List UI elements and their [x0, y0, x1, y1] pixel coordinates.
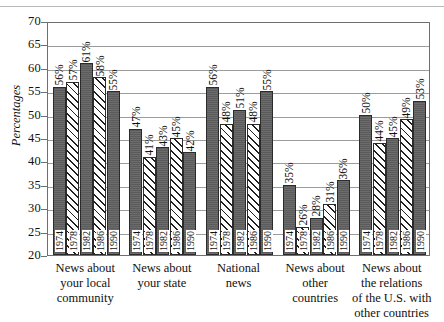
category-label-line: community	[41, 291, 130, 306]
bar[interactable]: 61%1982	[80, 63, 93, 255]
y-axis-tick-mark	[41, 256, 47, 257]
bar[interactable]: 45%1986	[170, 138, 183, 255]
category-label-line: other	[271, 276, 360, 291]
bar[interactable]: 53%1990	[413, 101, 426, 255]
bar-year-label: 1982	[389, 230, 399, 252]
page-rule-divider	[0, 6, 444, 7]
bar-year-label: 1986	[172, 230, 182, 252]
bar-year-label: 1986	[402, 230, 412, 252]
bar[interactable]: 48%1978	[220, 124, 233, 255]
category-label: News aboutthe relationsof the U.S. witho…	[347, 261, 436, 321]
chart-figure: 7065605550454035302520 Percentages 56%19…	[0, 0, 444, 322]
category-label: News aboutyour localcommunity	[41, 261, 130, 306]
bar[interactable]: 44%1978	[373, 143, 386, 255]
category-label-line: National	[194, 261, 283, 276]
category-label: News aboutyour state	[118, 261, 207, 291]
bar-group: 35%197426%197828%198231%198636%1990	[283, 21, 350, 255]
bar-year-label: 1986	[96, 230, 106, 252]
bar-year-label: 1978	[299, 230, 309, 252]
bar-year-label: 1978	[69, 230, 79, 252]
bar[interactable]: 31%1986	[323, 204, 336, 255]
y-axis-tick-label: 25	[15, 226, 41, 239]
plot-area: 56%197457%197861%198258%198655%199047%19…	[47, 22, 430, 256]
bar-year-label: 1982	[159, 230, 169, 252]
bar-year-label: 1978	[375, 230, 385, 252]
bar[interactable]: 26%1978	[296, 227, 309, 255]
bar-year-label: 1978	[222, 230, 232, 252]
bar[interactable]: 47%1974	[129, 129, 142, 255]
category-label-line: your state	[118, 276, 207, 291]
bar[interactable]: 36%1990	[337, 180, 350, 255]
bar[interactable]: 50%1974	[359, 115, 372, 255]
y-axis-tick-label: 35	[15, 179, 41, 192]
bar-year-label: 1990	[339, 230, 349, 252]
bar[interactable]: 49%1986	[400, 119, 413, 255]
bar-value-label: 28%	[311, 195, 323, 216]
bar-year-label: 1990	[109, 230, 119, 252]
category-label-line: news	[194, 276, 283, 291]
bar-year-label: 1986	[326, 230, 336, 252]
bar-value-label: 50%	[360, 93, 372, 114]
bar-year-label: 1990	[263, 230, 273, 252]
bar-value-label: 47%	[130, 107, 142, 128]
category-label-line: News about	[271, 261, 360, 276]
bar-value-label: 57%	[67, 60, 79, 81]
bar-year-label: 1982	[82, 230, 92, 252]
bar-value-label: 42%	[184, 130, 196, 151]
category-label-line: other countries	[347, 306, 436, 321]
bar-value-label: 58%	[94, 55, 106, 76]
bar[interactable]: 28%1982	[310, 218, 323, 255]
bar[interactable]: 55%1990	[107, 91, 120, 255]
category-label-line: News about	[41, 261, 130, 276]
bar-group: 56%197457%197861%198258%198655%1990	[53, 21, 120, 255]
bar[interactable]: 48%1986	[247, 124, 260, 255]
bar-year-label: 1990	[416, 230, 426, 252]
bar[interactable]: 58%1986	[93, 77, 106, 255]
bar-year-label: 1974	[55, 230, 65, 252]
bar[interactable]: 43%1982	[156, 147, 169, 255]
bar-value-label: 45%	[171, 116, 183, 137]
category-label-line: News about	[118, 261, 207, 276]
bar-value-label: 56%	[54, 64, 66, 85]
bar-value-label: 41%	[144, 135, 156, 156]
bar-group: 56%197448%197851%198248%198655%1990	[206, 21, 273, 255]
bar-value-label: 61%	[81, 41, 93, 62]
bar[interactable]: 45%1982	[386, 138, 399, 255]
bar-year-label: 1990	[186, 230, 196, 252]
bar-year-label: 1974	[132, 230, 142, 252]
y-axis-tick-label: 20	[15, 249, 41, 262]
y-axis-title: Percentages	[9, 56, 24, 176]
bar-year-label: 1978	[145, 230, 155, 252]
bar[interactable]: 42%1990	[183, 152, 196, 255]
bar-value-label: 35%	[284, 163, 296, 184]
bar[interactable]: 56%1974	[53, 87, 66, 255]
bar-year-label: 1974	[362, 230, 372, 252]
bar-group: 47%197441%197843%198245%198642%1990	[129, 21, 196, 255]
bar-value-label: 56%	[207, 64, 219, 85]
y-axis-tick-label: 30	[15, 202, 41, 215]
bar-value-label: 53%	[414, 78, 426, 99]
bar[interactable]: 51%1982	[233, 110, 246, 255]
bar-year-label: 1982	[236, 230, 246, 252]
bar[interactable]: 56%1974	[206, 87, 219, 255]
y-axis-tick-label: 70	[15, 15, 41, 28]
bar-value-label: 43%	[157, 125, 169, 146]
bar-year-label: 1974	[285, 230, 295, 252]
category-label: Nationalnews	[194, 261, 283, 291]
category-label-line: the relations	[347, 276, 436, 291]
bar-value-label: 55%	[108, 69, 120, 90]
bar[interactable]: 35%1974	[283, 185, 296, 255]
bar[interactable]: 55%1990	[260, 91, 273, 255]
category-label: News aboutothercountries	[271, 261, 360, 306]
bar-value-label: 48%	[221, 102, 233, 123]
bar-value-label: 44%	[374, 121, 386, 142]
category-label-line: your local	[41, 276, 130, 291]
bar-value-label: 49%	[401, 97, 413, 118]
bar[interactable]: 41%1978	[143, 157, 156, 255]
category-label-line: News about	[347, 261, 436, 276]
bar-year-label: 1974	[209, 230, 219, 252]
category-label-line: countries	[271, 291, 360, 306]
bar[interactable]: 57%1978	[66, 82, 79, 255]
bar-group: 50%197444%197845%198249%198653%1990	[359, 21, 426, 255]
category-label-line: of the U.S. with	[347, 291, 436, 306]
